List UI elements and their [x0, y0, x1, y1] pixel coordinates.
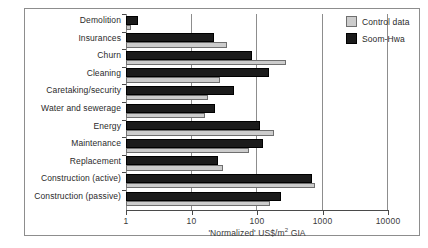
bar-soom-hwa: [126, 174, 312, 183]
bar-control-data: [126, 95, 208, 101]
category-label: Churn: [97, 50, 121, 60]
bar-soom-hwa: [126, 156, 218, 165]
category-label: Maintenance: [71, 138, 121, 148]
bar-row: Caretaking/security: [126, 84, 388, 102]
bar-soom-hwa: [126, 86, 234, 95]
category-label: Caretaking/security: [46, 85, 121, 95]
bar-control-data: [126, 113, 205, 119]
bar-control-data: [126, 130, 274, 136]
x-tick-1000: [323, 210, 324, 215]
bar-control-data: [126, 165, 223, 171]
x-axis-title-text: 'Normalized' US$/m2 GIA: [208, 228, 305, 238]
category-label: Water and sewerage: [41, 103, 121, 113]
category-label: Construction (passive): [34, 191, 121, 201]
legend-item-soom-hwa: Soom-Hwa: [346, 31, 420, 46]
bar-row: Churn: [126, 49, 388, 67]
category-label: Replacement: [70, 156, 121, 166]
x-tick-label-10: 10: [187, 216, 197, 226]
bar-soom-hwa: [126, 16, 138, 25]
x-tick-label-100: 100: [250, 216, 265, 226]
x-tick-label-1: 1: [124, 216, 129, 226]
x-tick-10: [192, 210, 193, 215]
x-tick-label-1000: 1000: [313, 216, 333, 226]
legend-label-soom-hwa: Soom-Hwa: [362, 34, 405, 44]
category-label: Demolition: [80, 15, 121, 25]
x-tick-100: [257, 210, 258, 215]
legend-label-control-data: Control data: [362, 17, 410, 27]
bar-control-data: [126, 183, 315, 189]
category-label: Construction (active): [41, 173, 121, 183]
bar-control-data: [126, 25, 131, 31]
legend-swatch-control-data: [346, 16, 357, 27]
bar-control-data: [126, 148, 249, 154]
bar-row: Replacement: [126, 155, 388, 173]
bar-control-data: [126, 42, 227, 48]
bar-soom-hwa: [126, 33, 214, 42]
legend-item-control-data: Control data: [346, 14, 420, 29]
bar-row: Construction (active): [126, 172, 388, 190]
bar-soom-hwa: [126, 139, 263, 148]
bar-control-data: [126, 60, 286, 66]
bar-soom-hwa: [126, 68, 269, 77]
bar-soom-hwa: [126, 104, 215, 113]
category-label: Energy: [93, 121, 121, 131]
bar-row: Water and sewerage: [126, 102, 388, 120]
bar-soom-hwa: [126, 121, 260, 130]
bar-row: Maintenance: [126, 137, 388, 155]
bar-control-data: [126, 201, 270, 207]
x-tick-1: [126, 210, 127, 215]
bar-control-data: [126, 77, 220, 83]
x-axis-title: 'Normalized' US$/m2 GIA: [126, 227, 388, 238]
chart-legend: Control data Soom-Hwa: [346, 14, 420, 48]
bar-row: Cleaning: [126, 67, 388, 85]
x-tick-label-10000: 10000: [376, 216, 401, 226]
bar-soom-hwa: [126, 192, 281, 201]
category-label: Cleaning: [87, 68, 121, 78]
category-label: Insurances: [78, 33, 121, 43]
legend-swatch-soom-hwa: [346, 33, 357, 44]
chart-container: DemolitionInsurancesChurnCleaningCaretak…: [0, 0, 428, 248]
x-tick-10000: [388, 210, 389, 215]
bar-row: Construction (passive): [126, 190, 388, 208]
bar-soom-hwa: [126, 51, 252, 60]
bar-row: Energy: [126, 120, 388, 138]
